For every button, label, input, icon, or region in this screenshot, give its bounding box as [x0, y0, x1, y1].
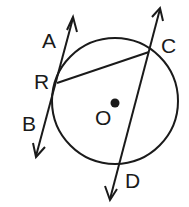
label-r: R [34, 70, 49, 93]
label-b: B [22, 112, 36, 135]
label-a: A [42, 29, 56, 52]
geometry-diagram: A R B C O D [0, 0, 189, 207]
label-d: D [125, 169, 140, 192]
center-point-o [111, 99, 120, 108]
label-c: C [161, 34, 176, 57]
label-o: O [95, 106, 111, 129]
